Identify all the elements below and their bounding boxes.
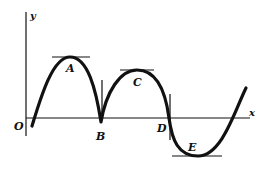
y-axis-label: y	[29, 10, 37, 21]
graph-svg: y x O A B C D E	[0, 0, 269, 170]
point-label-e: E	[187, 141, 197, 154]
function-curve	[32, 57, 246, 156]
origin-label: O	[14, 120, 24, 133]
point-label-d: D	[156, 122, 167, 135]
point-label-b: B	[95, 130, 105, 143]
x-axis-label: x	[248, 107, 256, 118]
point-label-c: C	[133, 76, 142, 89]
point-label-a: A	[65, 62, 75, 75]
function-graph-diagram: y x O A B C D E	[0, 0, 269, 170]
